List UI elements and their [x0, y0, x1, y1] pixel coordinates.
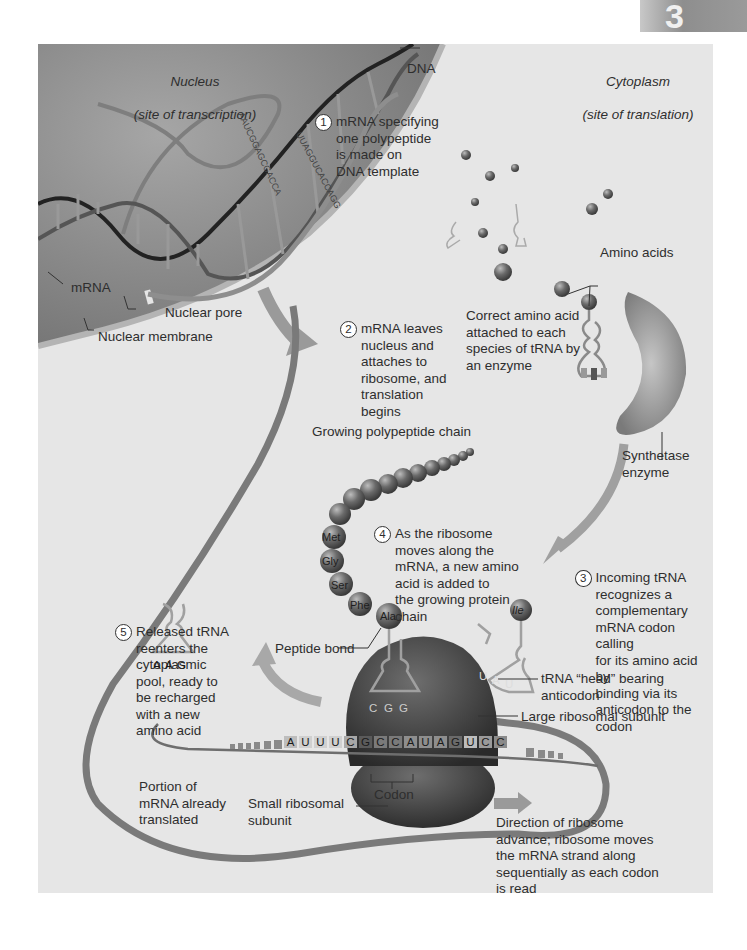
chapter-tab: 3 [640, 0, 747, 32]
label-small-subunit: Small ribosomal subunit [248, 796, 344, 829]
nucleus-title-text: Nucleus [171, 74, 220, 89]
aa-gly: Gly [322, 555, 339, 567]
step-3: 3 Incoming tRNA recognizes a complementa… [575, 570, 713, 735]
step-4-number: 4 [374, 526, 391, 543]
cytoplasm-title: Cytoplasm (site of translation) [568, 57, 708, 123]
aa-ile: Ile [512, 604, 524, 616]
nucleotide: A [434, 736, 447, 748]
label-peptide-bond: Peptide bond [275, 641, 355, 658]
step-5: 5 Released tRNA reenters the cytoplasmic… [115, 624, 229, 740]
bound-anticodon-3: G [399, 702, 408, 714]
label-mrna: mRNA [71, 280, 111, 297]
nucleus-subtitle-text: (site of transcription) [134, 107, 256, 122]
cytoplasm-title-text: Cytoplasm [606, 74, 670, 89]
nucleotide: U [419, 736, 432, 748]
bound-anticodon-2: G [384, 702, 393, 714]
label-codon: Codon [374, 787, 414, 804]
cytoplasm-subtitle-text: (site of translation) [582, 107, 693, 122]
released-anticodon-2: A [165, 659, 173, 671]
incoming-anticodon-1: U [479, 670, 487, 682]
label-correct-amino-acid: Correct amino acid attached to each spec… [466, 308, 580, 374]
released-anticodon-1: A [153, 659, 161, 671]
nucleotide: A [284, 736, 297, 748]
nucleotide: C [494, 736, 507, 748]
aa-phe: Phe [350, 599, 370, 611]
mrna-codon-sequence: A U U U C G C C A U A G U C C [284, 736, 507, 748]
nucleotide: U [314, 736, 327, 748]
ribosome [346, 636, 498, 828]
aa-met: Met [322, 531, 340, 543]
step-1: 1 mRNA specifying one polypeptide is mad… [315, 114, 439, 180]
label-growing-chain: Growing polypeptide chain [312, 424, 471, 441]
nucleotide: C [479, 736, 492, 748]
nucleotide: U [329, 736, 342, 748]
step-1-text: mRNA specifying one polypeptide is made … [336, 114, 439, 180]
incoming-anticodon-2: A [492, 674, 500, 686]
nucleus-title: Nucleus (site of transcription) [120, 57, 270, 123]
step-5-text: Released tRNA reenters the cytoplasmic p… [136, 624, 229, 740]
nucleotide: U [464, 736, 477, 748]
step-1-number: 1 [315, 114, 332, 131]
label-mrna-translated: Portion of mRNA already translated [139, 779, 226, 829]
aa-ser: Ser [331, 579, 348, 591]
step-5-number: 5 [115, 624, 132, 641]
chapter-number: 3 [665, 0, 685, 36]
aa-ala: Ala [380, 610, 396, 622]
bound-anticodon-1: C [369, 702, 377, 714]
label-nuclear-pore: Nuclear pore [165, 305, 242, 322]
translation-diagram: AAUCGGAGCGACCA UUAGGUCACCAGG [38, 44, 713, 893]
nucleotide: G [359, 736, 372, 748]
step-2-text: mRNA leaves nucleus and attaches to ribo… [361, 321, 447, 420]
label-amino-acids: Amino acids [600, 245, 674, 262]
label-nuclear-membrane: Nuclear membrane [98, 329, 213, 346]
incoming-anticodon-3: U [505, 678, 513, 690]
step-3-text: Incoming tRNA recognizes a complementary… [596, 570, 714, 735]
synthetase-enzyme-shape [616, 292, 686, 435]
nucleotide: C [344, 736, 357, 748]
nucleotide: U [299, 736, 312, 748]
nucleotide: G [449, 736, 462, 748]
step-2-number: 2 [340, 321, 357, 338]
step-4-text: As the ribosome moves along the mRNA, a … [395, 526, 519, 625]
nucleotide: C [374, 736, 387, 748]
nucleotide: A [404, 736, 417, 748]
label-direction: Direction of ribosome advance; ribosome … [496, 815, 659, 893]
label-synthetase-enzyme: Synthetase enzyme [622, 448, 690, 481]
step-2: 2 mRNA leaves nucleus and attaches to ri… [340, 321, 447, 420]
nucleotide: C [389, 736, 402, 748]
step-3-number: 3 [575, 570, 592, 587]
released-anticodon-3: G [177, 659, 186, 671]
label-dna: DNA [407, 61, 436, 78]
